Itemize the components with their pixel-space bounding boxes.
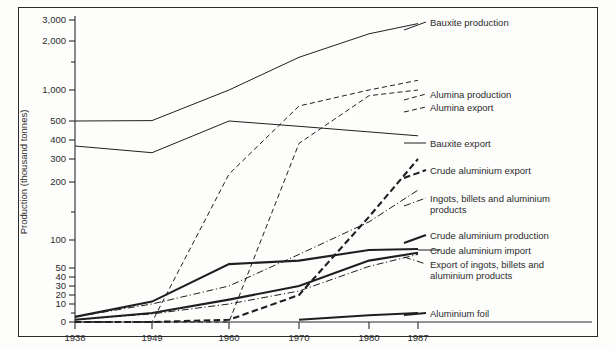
series-label-3: Bauxite export xyxy=(430,138,491,149)
series-label-4: Crude aluminium export xyxy=(430,165,531,176)
label-leader-1 xyxy=(404,94,426,100)
y-tick-label: 3,000 xyxy=(42,14,66,25)
label-leader-8 xyxy=(404,257,426,264)
y-axis-title: Production (thousand tonnes) xyxy=(18,110,29,235)
chart-canvas: 3,0002,0001,0005004003002001005040302010… xyxy=(0,0,615,350)
series-label-0: Bauxite production xyxy=(430,17,509,28)
y-tick-label: 100 xyxy=(50,234,66,245)
x-tick-label: 1960 xyxy=(218,332,239,343)
series-line-5 xyxy=(75,190,418,317)
x-tick-label: 1949 xyxy=(141,332,162,343)
y-tick-label: 2,000 xyxy=(42,35,66,46)
x-tick-label: 1970 xyxy=(288,332,309,343)
y-tick-label: 300 xyxy=(50,153,66,164)
series-line-2 xyxy=(75,90,418,322)
series-line-4 xyxy=(75,159,418,322)
x-tick-label: 1980 xyxy=(358,332,379,343)
series-line-3 xyxy=(75,121,418,153)
x-axis-tick-labels: 193819491960197019801987 xyxy=(64,332,428,343)
y-tick-label: 200 xyxy=(50,176,66,187)
x-tick-label: 1938 xyxy=(64,332,85,343)
series-label-2: Alumina export xyxy=(430,102,494,113)
label-leader-6 xyxy=(404,235,426,243)
y-axis-tick-labels: 3,0002,0001,0005004003002001005040302010… xyxy=(42,14,66,327)
label-leader-2 xyxy=(404,107,426,112)
chart-figure: 3,0002,0001,0005004003002001005040302010… xyxy=(0,0,615,350)
label-leader-4 xyxy=(404,170,426,178)
series-group xyxy=(75,24,418,322)
series-line-6 xyxy=(75,249,418,317)
series-labels: Bauxite productionAlumina productionAlum… xyxy=(430,17,550,319)
series-label-9: Export of ingots, billets and xyxy=(430,259,544,270)
series-label-11: Aluminium foil xyxy=(430,308,489,319)
y-tick-label: 500 xyxy=(50,115,66,126)
series-label-1: Alumina production xyxy=(430,89,511,100)
label-leader-5 xyxy=(404,198,426,206)
y-tick-label: 10 xyxy=(55,298,66,309)
series-label-8: Crude aluminium import xyxy=(430,245,531,256)
x-tick-label: 1987 xyxy=(407,332,428,343)
y-tick-label: 400 xyxy=(50,134,66,145)
y-tick-label: 0 xyxy=(61,316,66,327)
series-label-5: Ingots, billets and aluminium xyxy=(430,193,550,204)
series-label-6: products xyxy=(430,204,467,215)
series-line-9 xyxy=(299,313,418,320)
series-line-0 xyxy=(75,24,418,121)
series-line-1 xyxy=(75,80,418,322)
series-label-10: aluminium products xyxy=(430,270,513,281)
y-tick-label: 1,000 xyxy=(42,84,66,95)
series-label-7: Crude aluminium production xyxy=(430,230,549,241)
y-axis-ticks xyxy=(69,20,75,322)
